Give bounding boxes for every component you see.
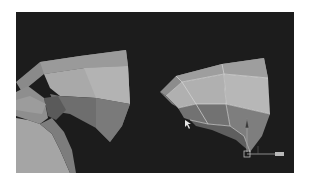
scene-canvas	[16, 12, 294, 173]
left-mesh[interactable]	[16, 50, 130, 173]
right-mesh[interactable]	[160, 58, 270, 152]
mouse-cursor-icon	[185, 120, 191, 129]
3d-viewport[interactable]	[16, 12, 294, 173]
